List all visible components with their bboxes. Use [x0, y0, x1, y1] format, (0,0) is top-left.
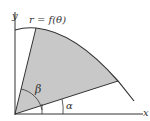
y-axis-label: y — [12, 11, 18, 21]
polar-region-diagram — [0, 0, 150, 121]
x-axis-label: x — [143, 108, 149, 118]
curve-label: r = f(θ) — [29, 15, 66, 25]
angle-alpha-label: α — [66, 101, 73, 111]
angle-beta-label: β — [35, 84, 41, 95]
angle-alpha-arc — [62, 99, 63, 114]
